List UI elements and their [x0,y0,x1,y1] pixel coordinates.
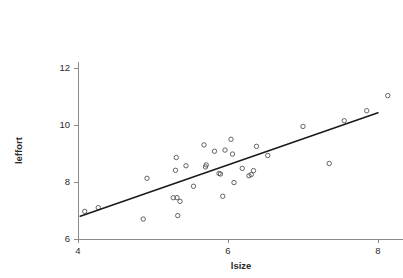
y-tick-label: 8 [65,176,70,187]
x-tick-label: 6 [225,245,230,256]
data-point [232,180,236,184]
x-axis-tick-labels: 468 [75,245,380,256]
data-point [145,176,149,180]
y-tick-label: 12 [59,62,70,73]
data-point [141,217,145,221]
y-axis-title: leffort [13,136,24,164]
data-point [386,93,390,97]
plot-canvas: 681012 468 leffort lsize [0,0,403,278]
data-point [223,148,227,152]
x-tick-label: 4 [75,245,80,256]
data-point [342,119,346,123]
data-point [221,194,225,198]
data-points-group [83,93,390,221]
data-point [301,124,305,128]
data-point [327,161,331,165]
data-point [229,137,233,141]
tick-marks-group [74,68,378,243]
scatter-plot-figure: 681012 468 leffort lsize [0,0,403,278]
data-point [184,164,188,168]
data-point [202,143,206,147]
data-point [240,166,244,170]
data-point [173,168,177,172]
x-axis-title: lsize [231,260,252,271]
x-tick-label: 8 [375,245,380,256]
data-point [266,153,270,157]
data-point [176,213,180,217]
data-point [178,199,182,203]
axes-group [78,62,403,239]
data-point [174,155,178,159]
y-tick-label: 6 [65,233,70,244]
data-point [230,152,234,156]
data-point [191,184,195,188]
data-point [254,144,258,148]
data-point [212,149,216,153]
data-point [83,209,87,213]
regression-line [80,113,378,216]
data-point [365,109,369,113]
y-tick-label: 10 [59,119,70,130]
y-axis-tick-labels: 681012 [59,62,70,244]
regression-line-group [80,113,378,216]
data-point [251,168,255,172]
